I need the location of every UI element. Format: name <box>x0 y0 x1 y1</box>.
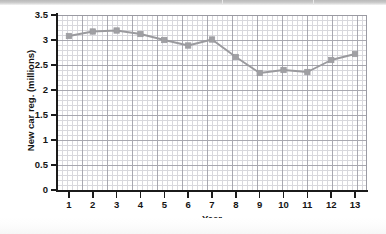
x-tick-label-10: 10 <box>272 200 296 210</box>
x-tick-8 <box>235 192 237 198</box>
line-chart-figure: 00.511.522.533.5 12345678910111213 New c… <box>0 0 386 234</box>
x-tick-label-3: 3 <box>105 200 129 210</box>
y-tick-label-1.5: 1.5 <box>35 110 48 120</box>
y-tick-2.5 <box>51 64 57 66</box>
x-tick-label-6: 6 <box>176 200 200 210</box>
x-tick-11 <box>307 192 309 198</box>
x-tick-label-9: 9 <box>248 200 272 210</box>
x-tick-5 <box>164 192 166 198</box>
y-tick-label-0: 0 <box>43 185 48 195</box>
y-tick-3.5 <box>51 14 57 16</box>
x-tick-9 <box>259 192 261 198</box>
x-tick-label-1: 1 <box>57 200 81 210</box>
y-tick-3 <box>51 39 57 41</box>
x-tick-label-11: 11 <box>295 200 319 210</box>
y-tick-1 <box>51 139 57 141</box>
x-tick-13 <box>354 192 356 198</box>
y-tick-label-2.5: 2.5 <box>35 60 48 70</box>
plot-border-right <box>366 15 367 190</box>
y-tick-0.5 <box>51 164 57 166</box>
y-tick-0 <box>51 189 57 191</box>
x-tick-label-5: 5 <box>152 200 176 210</box>
x-tick-label-12: 12 <box>319 200 343 210</box>
y-tick-label-3.5: 3.5 <box>35 10 48 20</box>
x-tick-label-2: 2 <box>81 200 105 210</box>
y-tick-label-3: 3 <box>43 35 48 45</box>
x-tick-10 <box>283 192 285 198</box>
x-tick-4 <box>140 192 142 198</box>
x-tick-1 <box>68 192 70 198</box>
plot-border-top <box>57 15 367 16</box>
x-tick-6 <box>187 192 189 198</box>
y-tick-label-1: 1 <box>43 135 48 145</box>
x-tick-12 <box>330 192 332 198</box>
x-tick-label-7: 7 <box>200 200 224 210</box>
y-tick-1.5 <box>51 114 57 116</box>
plot-area <box>57 15 367 190</box>
x-tick-label-8: 8 <box>224 200 248 210</box>
x-tick-7 <box>211 192 213 198</box>
y-axis-title: New car reg. (millions) <box>25 26 36 176</box>
major-gridlines <box>57 15 367 190</box>
x-tick-label-13: 13 <box>343 200 367 210</box>
y-tick-label-0.5: 0.5 <box>35 160 48 170</box>
y-tick-label-2: 2 <box>43 85 48 95</box>
x-tick-3 <box>116 192 118 198</box>
y-tick-2 <box>51 89 57 91</box>
scan-artifact-bottom <box>0 218 386 234</box>
x-tick-label-4: 4 <box>128 200 152 210</box>
x-tick-2 <box>92 192 94 198</box>
